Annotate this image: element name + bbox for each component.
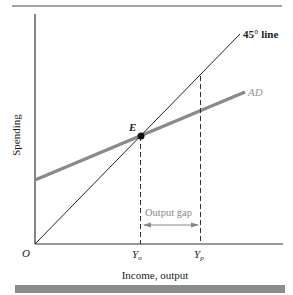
output-gap-label: Output gap — [145, 207, 192, 218]
yp-label: Yp — [194, 248, 204, 262]
output-gap-arrow — [143, 223, 199, 228]
line-45-degree — [35, 34, 240, 244]
origin-label: O — [22, 247, 30, 259]
line-45-label: 45° line — [243, 28, 278, 40]
equilibrium-point — [138, 133, 145, 140]
keynesian-cross-diagram: 45° line AD E O Yo Yp Output gap Income,… — [0, 0, 293, 295]
bottom-bar — [15, 285, 285, 293]
ad-label: AD — [247, 86, 263, 98]
x-axis-label: Income, output — [122, 269, 189, 281]
e-label: E — [128, 121, 136, 133]
y-axis-label: Spending — [10, 114, 22, 156]
yo-label: Yo — [132, 248, 142, 262]
